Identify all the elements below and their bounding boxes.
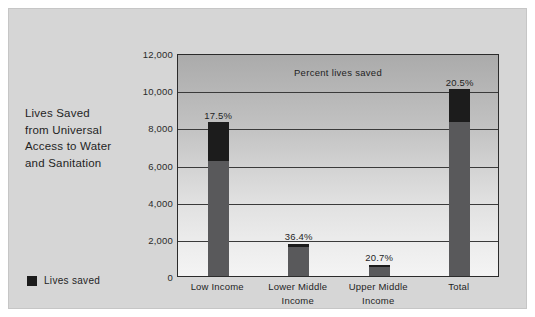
- x-axis-tick-line: Lower Middle: [268, 280, 327, 294]
- plot-area: Percent lives saved 17.5%36.4%20.7%20.5%: [177, 54, 499, 277]
- bar-3: [369, 265, 390, 277]
- bar-segment-base: [288, 247, 309, 276]
- bar-value-label: 17.5%: [204, 110, 232, 121]
- y-axis-tick-label: 8,000: [129, 123, 173, 134]
- bar-segment-base: [449, 122, 470, 276]
- x-axis: Low IncomeLower MiddleIncomeUpper Middle…: [177, 280, 499, 317]
- y-axis-tick-label: 12,000: [129, 49, 173, 60]
- bar-value-label: 36.4%: [285, 231, 313, 242]
- x-axis-tick-label: Lower MiddleIncome: [268, 280, 327, 308]
- x-axis-tick-label: Upper MiddleIncome: [349, 280, 408, 308]
- bar-segment-lives-saved: [208, 122, 229, 161]
- y-axis-tick-label: 6,000: [129, 160, 173, 171]
- x-axis-tick-label: Total: [448, 280, 469, 294]
- y-axis-tick-label: 0: [129, 272, 173, 283]
- y-axis-tick-label: 2,000: [129, 234, 173, 245]
- bar-value-label: 20.5%: [446, 77, 474, 88]
- x-axis-tick-line: Income: [268, 294, 327, 308]
- y-axis: 02,0004,0006,0008,00010,00012,000: [127, 54, 173, 277]
- bar-value-label: 20.7%: [365, 252, 393, 263]
- legend-swatch-icon: [27, 276, 37, 286]
- bar-segment-lives-saved: [449, 89, 470, 122]
- chart-figure: Lives Saved from Universal Access to Wat…: [8, 8, 527, 309]
- chart-legend: Lives saved: [27, 275, 100, 286]
- bar-4: [449, 89, 470, 276]
- y-axis-tick-label: 4,000: [129, 197, 173, 208]
- x-axis-tick-line: Income: [349, 294, 408, 308]
- y-axis-tick-label: 10,000: [129, 86, 173, 97]
- bar-1: [208, 122, 229, 276]
- bar-2: [288, 244, 309, 277]
- x-axis-tick-label: Low Income: [191, 280, 244, 294]
- x-axis-tick-line: Total: [448, 280, 469, 294]
- x-axis-tick-line: Upper Middle: [349, 280, 408, 294]
- bar-segment-base: [369, 267, 390, 276]
- legend-label: Lives saved: [44, 275, 100, 286]
- bar-segment-base: [208, 161, 229, 276]
- x-axis-tick-line: Low Income: [191, 280, 244, 294]
